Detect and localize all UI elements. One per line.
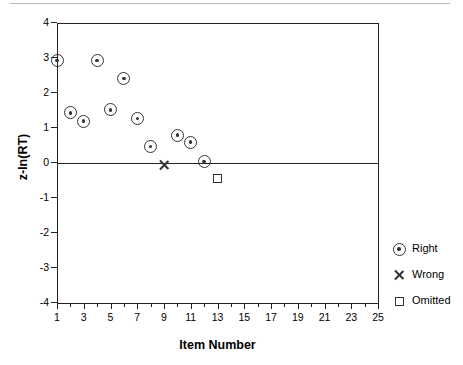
legend-label: Wrong [412, 267, 444, 281]
x-tick-minor [258, 303, 259, 307]
x-tick-major [244, 303, 245, 309]
x-tick-major [111, 303, 112, 309]
legend-marker-x-icon [392, 268, 406, 282]
data-point-right [77, 115, 90, 128]
data-point-right [184, 136, 197, 149]
x-tick-label: 5 [99, 311, 123, 323]
x-tick-minor [97, 303, 98, 307]
legend-item-right: Right [392, 238, 463, 264]
y-tick-label-wrap: -2 [22, 227, 49, 237]
x-tick-label: 21 [313, 311, 337, 323]
y-tick [51, 197, 57, 198]
x-tick-label: 19 [286, 311, 310, 323]
x-tick-label: 13 [206, 311, 230, 323]
data-point-right [91, 54, 104, 67]
y-tick [51, 22, 57, 23]
y-tick-label-wrap: -4 [22, 297, 49, 307]
data-point-right [131, 112, 144, 125]
y-tick-label-wrap: 3 [22, 52, 49, 62]
x-tick-minor [231, 303, 232, 307]
y-tick-label: 4 [25, 17, 49, 27]
x-tick-minor [204, 303, 205, 307]
x-tick-label: 11 [179, 311, 203, 323]
x-tick-label: 3 [72, 311, 96, 323]
plot-frame-right [378, 23, 379, 303]
zero-reference-line [57, 163, 378, 164]
x-tick-label: 9 [152, 311, 176, 323]
y-tick-label: 2 [25, 87, 49, 97]
y-tick-label-wrap: 4 [22, 17, 49, 27]
y-tick-label-wrap: 2 [22, 87, 49, 97]
legend-label: Right [412, 241, 438, 255]
x-tick-major [57, 303, 58, 309]
x-tick-minor [70, 303, 71, 307]
x-tick-major [325, 303, 326, 309]
y-tick-label: -2 [25, 227, 49, 237]
x-tick-minor [311, 303, 312, 307]
y-tick [51, 232, 57, 233]
x-tick-major [271, 303, 272, 309]
y-tick-label: -4 [25, 297, 49, 307]
data-point-right [171, 129, 184, 142]
x-tick-minor [151, 303, 152, 307]
data-point-right [117, 72, 130, 85]
data-point-right [64, 106, 77, 119]
legend-label: Omitted [412, 293, 451, 307]
x-tick-major [164, 303, 165, 309]
x-tick-major [218, 303, 219, 309]
y-tick [51, 127, 57, 128]
legend-marker-square-icon [392, 294, 406, 308]
y-tick [51, 92, 57, 93]
x-tick-major [298, 303, 299, 309]
y-tick-label-wrap: -3 [22, 262, 49, 272]
x-tick-major [137, 303, 138, 309]
x-tick-label: 25 [366, 311, 390, 323]
data-point-wrong [158, 159, 170, 171]
plot-frame-top [57, 23, 378, 24]
y-tick-label: 3 [25, 52, 49, 62]
x-tick-major [351, 303, 352, 309]
y-tick [51, 267, 57, 268]
scatter-plot-figure: 43210-1-2-3-4 135791113151719212325 z-ln… [0, 0, 463, 365]
x-tick-major [84, 303, 85, 309]
x-tick-label: 15 [232, 311, 256, 323]
x-tick-minor [124, 303, 125, 307]
data-point-right [144, 140, 157, 153]
data-point-right [104, 103, 117, 116]
legend-item-wrong: Wrong [392, 264, 463, 290]
y-axis-title: z-ln(RT) [16, 112, 30, 202]
data-point-right [198, 155, 211, 168]
y-tick [51, 162, 57, 163]
legend: RightWrongOmitted [392, 238, 463, 316]
x-tick-major [378, 303, 379, 309]
x-tick-label: 23 [339, 311, 363, 323]
x-tick-minor [338, 303, 339, 307]
x-tick-minor [177, 303, 178, 307]
x-tick-major [191, 303, 192, 309]
x-tick-minor [284, 303, 285, 307]
chart-page: 43210-1-2-3-4 135791113151719212325 z-ln… [0, 0, 463, 365]
data-point-omitted [213, 174, 222, 183]
x-tick-minor [365, 303, 366, 307]
x-tick-label: 17 [259, 311, 283, 323]
x-axis-title: Item Number [57, 338, 378, 352]
y-tick-label: -3 [25, 262, 49, 272]
data-point-right [51, 54, 64, 67]
x-tick-label: 1 [45, 311, 69, 323]
x-tick-label: 7 [125, 311, 149, 323]
legend-item-omitted: Omitted [392, 290, 463, 316]
legend-marker-circle-dot-icon [392, 242, 406, 256]
